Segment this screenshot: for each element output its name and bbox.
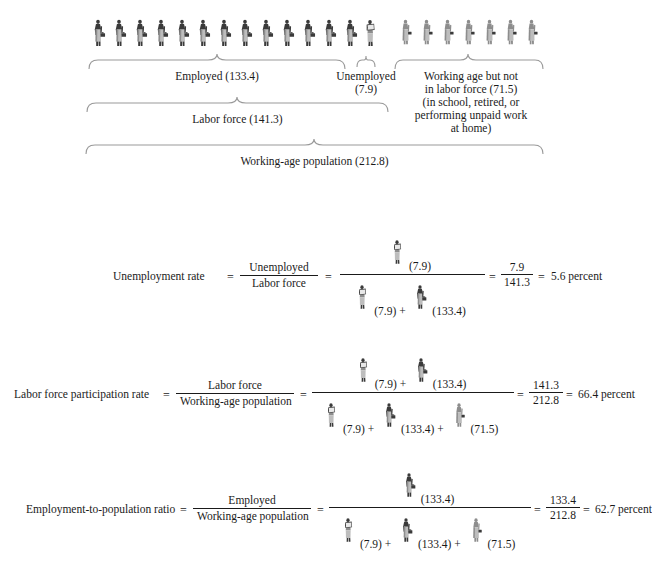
person-employed-icon [214,8,234,58]
employed-brace [88,58,346,70]
employment-to-population-ratio-pnum-value-0: (133.4) [418,493,460,505]
employment-to-population-ratio-pnum: (133.4) [329,463,531,507]
employed-label: Employed (133.4) [88,70,346,84]
person-employed-icon [256,8,276,58]
eq1-equals-3: = [489,270,496,285]
unemployment-rate-pden-value-1: (133.4) [429,305,471,317]
eq3-equals-3: = [534,503,541,518]
person-notinlaborforce-icon [459,8,478,56]
eq2-result: 66.4 percent [578,388,635,400]
eq1-name: Unemployment rate [113,270,205,282]
person-employed-icon [235,8,255,58]
not-in-labor-force-icon-group [396,8,543,56]
nilf-label-line4: performing unpaid work [398,109,544,123]
eq1-result: 5.6 percent [551,270,602,282]
eq2-denominator-text: Working-age population [176,395,294,407]
eq2-den-value: 212.8 [529,394,563,406]
person-employed-icon [109,8,129,58]
working-age-population-label: Working-age population (212.8) [85,155,544,169]
nilf-label-line3: (in school, retired, or [398,96,544,110]
person-employed-icon [193,8,213,58]
labor-force-participation-rate-pden: (7.9) + (133.4) + (71.5) [312,393,514,437]
person-notinlaborforce-icon [417,8,436,56]
unemployment-rate-pnum: (7.9) [340,230,485,274]
person-unemployed-icon [388,230,406,274]
eq2-equals-1: = [163,388,170,403]
person-employed-icon [400,463,418,507]
person-notinlaborforce-icon [480,8,499,56]
eq1-fraction-bar [240,275,318,276]
person-employed-icon [130,8,150,58]
person-notinlaborforce-icon [501,8,520,56]
eq2-pictorial-fraction: (7.9) + (133.4) (7.9) + (133.4) + (71.5) [312,348,514,437]
labor-force-participation-rate-pnum-value-0: (7.9) + [372,378,412,390]
eq2-equals-3: = [517,388,524,403]
eq1-den-value: 141.3 [501,276,533,288]
unemployment-rate-pden-value-0: (7.9) + [371,305,411,317]
unemployed-label: Unemployed [322,70,410,84]
person-employed-icon [340,8,360,58]
eq3-result: 62.7 percent [595,503,652,515]
population-icon-row [0,8,639,60]
person-employed-icon [411,275,429,319]
person-unemployed-icon [339,508,357,552]
eq1-equals-1: = [227,270,234,285]
eq3-numerator-text: Employed [193,494,311,506]
person-notinlaborforce-icon [450,393,468,437]
person-employed-icon [88,8,108,58]
nilf-label-line1: Working age but not [398,70,544,84]
eq1-number-fraction-bar [501,274,533,275]
person-employed-icon [151,8,171,58]
nilf-label-line5: at home) [398,122,544,136]
eq3-fraction-bar [193,508,311,509]
eq3-number-fraction-bar [546,507,580,508]
eq2-numerator-text: Labor force [176,379,294,391]
labor-force-brace [86,100,389,113]
equation-employment-to-population-ratio: Employment-to-population ratio = Employe… [0,463,639,563]
labor-force-participation-rate-pden-value-1: (133.4) + [398,423,450,435]
unemployed-icon-group [360,8,381,58]
eq3-equals-1: = [180,503,187,518]
labor-force-participation-rate-pden-value-0: (7.9) + [340,423,380,435]
eq2-word-fraction: Labor force Working-age population [176,379,294,407]
labor-force-label: Labor force (141.3) [86,113,389,127]
eq2-name: Labor force participation rate [14,388,149,400]
person-employed-icon [412,348,430,392]
eq3-den-value: 212.8 [546,509,580,521]
eq1-equals-2: = [325,270,332,285]
eq3-pictorial-fraction: (133.4) (7.9) + (133.4) + (71.5) [329,463,531,552]
working-age-population-brace [85,142,544,155]
equation-unemployment-rate: Unemployment rate = Unemployed Labor for… [0,230,639,330]
eq2-number-fraction: 141.3 212.8 [529,379,563,406]
labor-force-participation-rate-pden-value-2: (71.5) [468,423,504,435]
person-notinlaborforce-icon [467,508,485,552]
eq3-equals-4: = [583,503,590,518]
unemployment-rate-pden: (7.9) + (133.4) [340,275,485,319]
unemployment-rate-pnum-value-0: (7.9) [406,260,437,272]
labor-force-participation-rate-pnum: (7.9) + (133.4) [312,348,514,392]
person-unemployed-icon [360,8,380,58]
eq3-number-fraction: 133.4 212.8 [546,494,580,521]
person-notinlaborforce-icon [396,8,415,56]
equation-labor-force-participation-rate: Labor force participation rate = Labor f… [0,348,639,448]
employed-icon-group [88,8,361,58]
unemployed-value: (7.9) [322,83,410,97]
eq3-denominator-text: Working-age population [193,510,311,522]
person-unemployed-icon [322,393,340,437]
eq1-numerator-text: Unemployed [240,261,318,273]
nilf-label-line2: in labor force (71.5) [398,83,544,97]
eq2-fraction-bar [176,393,294,394]
eq1-word-fraction: Unemployed Labor force [240,261,318,289]
eq3-name: Employment-to-population ratio [26,503,175,515]
person-employed-icon [397,508,415,552]
eq2-num-value: 141.3 [529,379,563,391]
eq1-num-value: 7.9 [501,261,533,273]
person-employed-icon [298,8,318,58]
person-employed-icon [380,393,398,437]
eq1-equals-4: = [538,270,545,285]
eq1-denominator-text: Labor force [240,277,318,289]
eq2-equals-2: = [300,388,307,403]
eq2-equals-4: = [566,388,573,403]
not-in-labor-force-brace [394,58,544,70]
